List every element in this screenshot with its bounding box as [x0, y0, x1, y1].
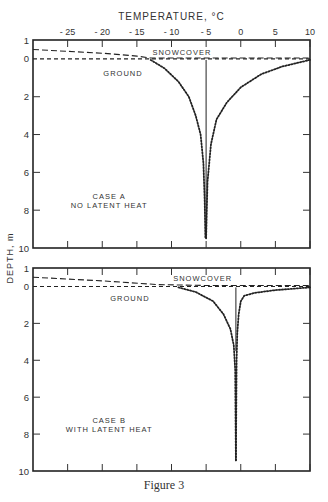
figure: TEMPERATURE, °CDEPTH, m- 25- 20- 15- 10-… [0, 0, 328, 502]
series-snowcover-surface [33, 277, 310, 285]
y-tick-label: 8 [24, 205, 29, 216]
y-tick-label: 4 [24, 355, 29, 366]
y-tick-label: 1 [24, 35, 29, 46]
snowcover-label: SNOWCOVER [173, 274, 232, 283]
plot-frame [33, 268, 310, 471]
y-tick-label: 2 [24, 91, 29, 102]
series-cold-profile [178, 287, 236, 461]
y-tick-label: 0 [24, 281, 29, 292]
y-tick-label: 2 [24, 318, 29, 329]
y-tick-label: 10 [18, 243, 29, 254]
y-axis-title: DEPTH, m [5, 232, 15, 283]
case-annotation: CASE A [93, 192, 126, 201]
chart-panel-case-a: - 25- 20- 15- 10- 5051010246810SNOWCOVER… [18, 27, 315, 254]
x-tick-label: 5 [273, 27, 278, 37]
x-tick-label: - 10 [164, 27, 180, 37]
series-warm-profile [206, 60, 310, 239]
x-tick-label: - 25 [60, 27, 76, 37]
y-tick-label: 6 [24, 392, 29, 403]
snowcover-label: SNOWCOVER [152, 48, 211, 57]
ground-label: GROUND [103, 69, 142, 78]
x-tick-label: 10 [305, 27, 315, 37]
x-tick-label: - 20 [94, 27, 110, 37]
figure-caption: Figure 3 [0, 478, 328, 493]
x-axis-title: TEMPERATURE, °C [118, 11, 225, 22]
y-tick-label: 1 [24, 263, 29, 274]
y-tick-label: 0 [24, 53, 29, 64]
chart-panel-case-b: 10246810SNOWCOVERGROUNDCASE BWITH LATENT… [18, 263, 310, 477]
y-tick-label: 10 [18, 466, 29, 477]
x-tick-label: 0 [238, 27, 243, 37]
case-annotation: NO LATENT HEAT [71, 201, 148, 210]
series-warm-profile [236, 287, 310, 461]
ground-label: GROUND [110, 294, 149, 303]
x-tick-label: - 5 [201, 27, 212, 37]
y-tick-label: 6 [24, 167, 29, 178]
y-tick-label: 8 [24, 429, 29, 440]
x-tick-label: - 15 [129, 27, 145, 37]
case-annotation: WITH LATENT HEAT [66, 425, 153, 434]
y-tick-label: 4 [24, 129, 29, 140]
case-annotation: CASE B [92, 416, 126, 425]
series-cold-profile [151, 60, 206, 239]
